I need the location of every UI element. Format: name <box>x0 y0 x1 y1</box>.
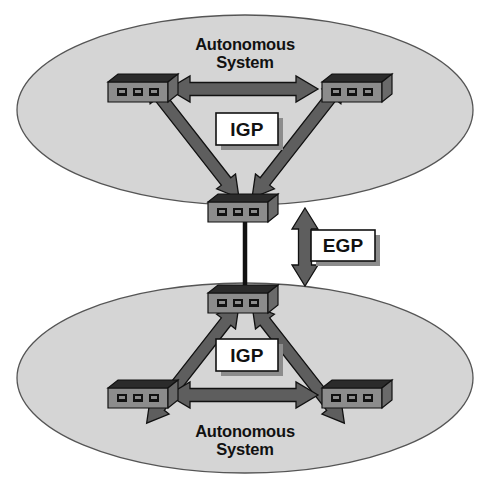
router-bottom-left[interactable] <box>108 380 178 408</box>
diagram-canvas: Autonomous System Autonomous System <box>0 0 491 489</box>
as-top-label-line1: Autonomous <box>195 35 295 53</box>
router-top-left[interactable] <box>108 74 178 102</box>
callout-igp-bottom-text: IGP <box>230 345 263 366</box>
callout-egp-middle: EGP <box>311 230 380 266</box>
as-bottom-label-line2: System <box>216 440 274 458</box>
router-bottom-right[interactable] <box>322 380 392 408</box>
router-top-right[interactable] <box>322 74 392 102</box>
callout-igp-bottom: IGP <box>216 339 283 376</box>
callout-egp-text: EGP <box>323 235 364 256</box>
router-top-border[interactable] <box>208 194 278 222</box>
router-bottom-border[interactable] <box>208 285 278 313</box>
callout-igp-top-text: IGP <box>230 119 263 140</box>
autonomous-system-top-region: Autonomous System <box>17 15 473 205</box>
as-top-label-line2: System <box>216 53 274 71</box>
network-diagram: Autonomous System Autonomous System <box>0 0 491 489</box>
callout-igp-top: IGP <box>216 113 283 150</box>
as-bottom-label-line1: Autonomous <box>195 422 295 440</box>
